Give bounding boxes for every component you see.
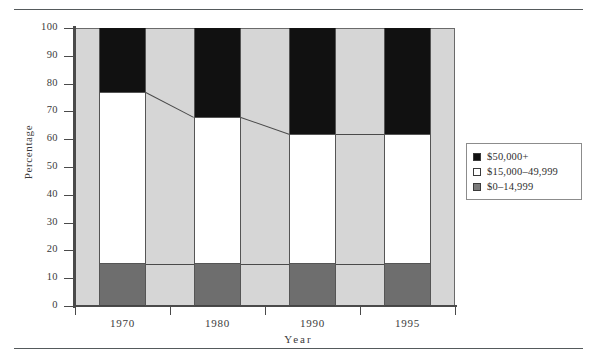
legend-item[interactable]: $50,000+ [473, 149, 575, 164]
y-axis-tick [64, 111, 76, 112]
legend-item[interactable]: $0–14,999 [473, 179, 575, 194]
y-axis-tick-label: 30 [32, 216, 58, 227]
y-axis-tick [64, 250, 76, 251]
y-axis-label-slot: 30 [24, 216, 58, 229]
y-axis-tick [64, 28, 76, 29]
x-axis-tick [455, 306, 456, 315]
y-axis-tick [64, 139, 76, 140]
bar-1970[interactable] [99, 28, 146, 306]
legend-item-label: $0–14,999 [487, 181, 533, 192]
y-axis-label-slot: 20 [24, 243, 58, 256]
clipped-caption [60, 0, 537, 7]
x-axis-tick [265, 306, 266, 315]
y-axis-tick-label: 90 [32, 49, 58, 60]
y-axis-tick-label: 40 [32, 188, 58, 199]
x-axis-tick-label: 1980 [188, 317, 248, 329]
bar-segment-high[interactable] [99, 28, 146, 92]
legend-swatch-icon [473, 183, 481, 191]
y-axis-tick-label: 10 [32, 271, 58, 282]
bar-1995[interactable] [384, 28, 431, 306]
y-axis-label-slot: 100 [24, 21, 58, 34]
segment-connector-line [146, 264, 194, 265]
bar-segment-mid[interactable] [384, 134, 431, 265]
x-axis-tick-label: 1970 [93, 317, 153, 329]
y-axis-label-slot: 0 [24, 299, 58, 312]
y-axis-label-slot: 80 [24, 77, 58, 90]
bar-segment-high[interactable] [384, 28, 431, 134]
y-axis-tick [64, 195, 76, 196]
x-axis-tick [360, 306, 361, 315]
bar-segment-low[interactable] [289, 264, 336, 306]
bar-segment-mid[interactable] [194, 117, 241, 264]
y-axis-tick-label: 60 [32, 132, 58, 143]
legend-item[interactable]: $15,000–49,999 [473, 164, 575, 179]
x-axis-tick [75, 306, 76, 315]
x-axis-title: Year [0, 333, 597, 345]
y-axis-tick-label: 100 [32, 21, 58, 32]
bottom-rule [14, 348, 583, 349]
y-axis-tick-label: 80 [32, 77, 58, 88]
bar-segment-low[interactable] [194, 264, 241, 306]
bar-1990[interactable] [289, 28, 336, 306]
y-axis-tick [64, 84, 76, 85]
legend-item-label: $50,000+ [487, 151, 529, 162]
bar-segment-high[interactable] [194, 28, 241, 117]
y-axis-tick-label: 50 [32, 160, 58, 171]
bar-segment-mid[interactable] [99, 92, 146, 264]
x-axis-tick-label: 1990 [283, 317, 343, 329]
top-rule [14, 9, 583, 10]
y-axis-label-slot: 90 [24, 49, 58, 62]
y-axis-label-slot: 10 [24, 271, 58, 284]
figure: 0102030405060708090100 Percentage 197019… [0, 0, 597, 360]
segment-connector-line [241, 264, 289, 265]
y-axis-tick [64, 56, 76, 57]
legend-swatch-icon [473, 168, 481, 176]
y-axis-tick-label: 0 [32, 299, 58, 310]
legend: $50,000+$15,000–49,999$0–14,999 [466, 143, 582, 200]
y-axis-tick-label: 70 [32, 104, 58, 115]
y-axis-tick [64, 167, 76, 168]
legend-swatch-icon [473, 153, 481, 161]
y-axis-tick [64, 278, 76, 279]
y-axis-tick-label: 20 [32, 243, 58, 254]
bar-segment-low[interactable] [384, 264, 431, 306]
bar-segment-mid[interactable] [289, 134, 336, 265]
y-axis-tick [64, 223, 76, 224]
x-axis-tick [170, 306, 171, 315]
legend-item-label: $15,000–49,999 [487, 166, 558, 177]
bar-segment-high[interactable] [289, 28, 336, 134]
segment-connector-line [336, 264, 384, 265]
x-axis-tick-label: 1995 [378, 317, 438, 329]
bar-1980[interactable] [194, 28, 241, 306]
bar-segment-low[interactable] [99, 264, 146, 306]
segment-connector-line [336, 134, 384, 135]
y-axis-title: Percentage [22, 102, 34, 202]
